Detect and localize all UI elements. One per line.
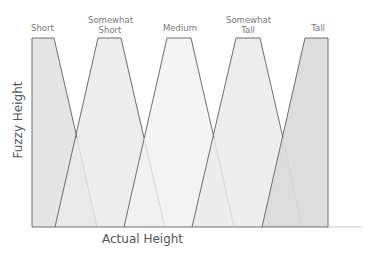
- label-short-text: Short: [31, 23, 54, 33]
- label-short: Short: [31, 23, 54, 33]
- label-tall: Tall: [306, 23, 330, 33]
- label-medium: Medium: [160, 23, 200, 33]
- x-axis-label: Actual Height: [102, 232, 183, 246]
- label-somewhat-tall-line1: Somewhat: [226, 15, 270, 25]
- label-somewhat-short: Somewhat Short: [88, 15, 132, 35]
- label-medium-text: Medium: [163, 23, 197, 33]
- y-axis-label: Fuzzy Height: [11, 80, 25, 160]
- label-somewhat-tall-line2: Tall: [226, 25, 270, 35]
- label-somewhat-tall: Somewhat Tall: [226, 15, 270, 35]
- label-somewhat-short-line2: Short: [88, 25, 132, 35]
- fuzzy-sets-diagram: [0, 0, 377, 261]
- label-tall-text: Tall: [311, 23, 325, 33]
- label-somewhat-short-line1: Somewhat: [88, 15, 132, 25]
